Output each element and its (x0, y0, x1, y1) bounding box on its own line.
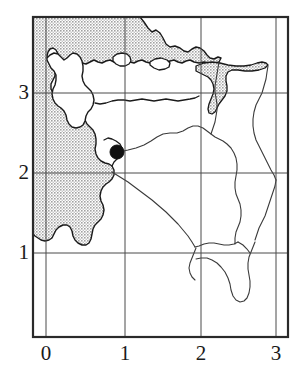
x-tick-label-2: 2 (189, 343, 213, 364)
map-figure: 0 1 2 3 3 2 1 (0, 0, 306, 375)
land-small-island-north (113, 53, 131, 66)
x-tick-label-3: 3 (264, 343, 288, 364)
y-tick-label-1: 1 (5, 242, 29, 263)
x-tick-label-0: 0 (34, 343, 58, 364)
x-tick-label-1: 1 (113, 343, 137, 364)
map-canvas (0, 0, 306, 375)
y-tick-label-2: 2 (5, 162, 29, 183)
city-marker-dot[interactable] (110, 145, 124, 159)
map-interior (33, 17, 288, 337)
y-tick-label-3: 3 (5, 82, 29, 103)
